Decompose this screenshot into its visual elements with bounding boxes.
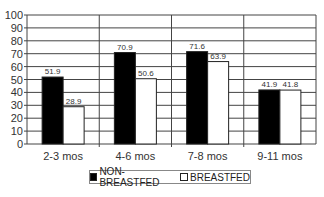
y-tick-label: 0 [17,138,23,150]
data-label: 71.6 [189,42,205,51]
y-tick-label: 60 [11,61,23,73]
bar-breastfed-2 [208,62,229,144]
y-tick-label: 90 [11,22,23,34]
legend-label-non-breastfed: NON-BREASTFED [99,166,176,188]
legend: NON-BREASTFED BREASTFED [89,170,251,184]
x-axis-labels: 2-3 mos4-6 mos7-8 mos9-11 mos [43,150,303,162]
x-tick-label: 4-6 mos [116,150,156,162]
bar-non-breastfed-0 [42,77,63,144]
x-tick-label: 9-11 mos [257,150,303,162]
x-tick-label: 2-3 mos [43,150,83,162]
bar-non-breastfed-2 [187,52,208,144]
bar-breastfed-1 [135,79,156,144]
x-tick-label: 7-8 mos [188,150,228,162]
y-tick-label: 20 [11,112,23,124]
bar-non-breastfed-1 [114,53,135,144]
legend-swatch-breastfed [180,173,188,181]
bar-non-breastfed-3 [259,90,280,144]
data-label: 70.9 [117,43,133,52]
legend-swatch-non-breastfed [90,173,97,181]
y-tick-label: 100 [5,9,23,21]
legend-label-breastfed: BREASTFED [190,172,250,183]
legend-item-non-breastfed: NON-BREASTFED [90,166,176,188]
y-tick-label: 80 [11,35,23,47]
y-axis-ticks: 0102030405060708090100 [5,9,23,150]
y-tick-label: 50 [11,74,23,86]
y-tick-label: 70 [11,48,23,60]
data-label: 63.9 [210,52,226,61]
y-tick-label: 10 [11,125,23,137]
data-label: 41.8 [283,80,299,89]
y-tick-label: 30 [11,99,23,111]
legend-item-breastfed: BREASTFED [180,172,250,183]
data-label: 51.9 [45,67,61,76]
data-label: 28.9 [66,97,82,106]
data-label: 50.6 [138,69,154,78]
data-label: 41.9 [262,80,278,89]
y-tick-label: 40 [11,86,23,98]
bar-breastfed-0 [63,107,84,144]
bar-breastfed-3 [280,90,301,144]
